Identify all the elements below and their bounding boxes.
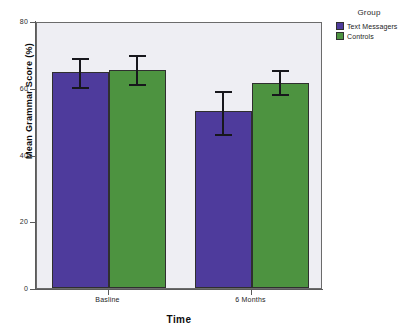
error-bar-cap-lower <box>215 134 232 136</box>
x-tick <box>251 290 252 295</box>
error-bar-cap-upper <box>129 55 146 57</box>
error-bar <box>252 70 309 96</box>
bar-chart: 020406080 Mean Grammar Score (%) Basline… <box>0 0 411 334</box>
legend-item[interactable]: Text Messagers <box>336 22 411 30</box>
plot-area <box>36 22 322 289</box>
bar[interactable] <box>52 72 109 288</box>
legend-item[interactable]: Controls <box>336 32 411 40</box>
y-axis-title-holder: Mean Grammar Score (%) <box>0 0 30 334</box>
error-bar-stem <box>136 55 138 85</box>
legend-item-label: Text Messagers <box>347 23 397 30</box>
legend-swatch-icon <box>336 32 344 40</box>
error-bar <box>109 55 166 85</box>
x-tick-label: 6 Months <box>206 296 296 303</box>
bar[interactable] <box>252 83 309 288</box>
legend-title: Group <box>336 8 402 17</box>
y-axis-title: Mean Grammar Score (%) <box>24 11 34 191</box>
legend-swatch-icon <box>336 22 344 30</box>
legend: Group Text Messagers Controls <box>336 8 411 42</box>
error-bar-cap-upper <box>215 91 232 93</box>
error-bar <box>52 58 109 89</box>
error-bar-cap-lower <box>129 84 146 86</box>
error-bar-stem <box>279 70 281 96</box>
bar[interactable] <box>195 111 252 288</box>
bar[interactable] <box>109 70 166 288</box>
error-bar-stem <box>222 91 224 136</box>
error-bar-cap-upper <box>272 70 289 72</box>
error-bar-stem <box>79 58 81 89</box>
legend-item-label: Controls <box>347 33 374 40</box>
error-bar <box>195 91 252 136</box>
x-tick <box>108 290 109 295</box>
error-bar-cap-upper <box>72 58 89 60</box>
x-axis-line <box>35 289 323 290</box>
y-axis-line <box>35 21 36 290</box>
x-tick-label: Basline <box>63 296 153 303</box>
y-tick <box>30 222 35 223</box>
error-bar-cap-lower <box>72 87 89 89</box>
error-bar-cap-lower <box>272 94 289 96</box>
x-axis-title: Time <box>36 314 322 325</box>
